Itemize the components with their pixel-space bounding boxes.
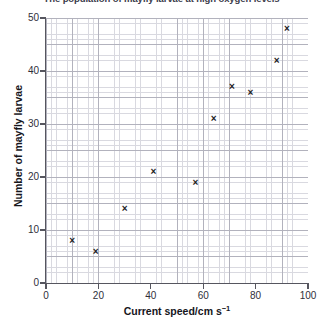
data-point: × <box>91 247 100 256</box>
x-axis-title-text: Current speed/cm s <box>124 305 222 317</box>
x-axis-tick <box>203 284 204 289</box>
y-axis-tick <box>40 176 45 177</box>
data-point: × <box>68 236 77 245</box>
x-axis-tick <box>255 284 256 289</box>
x-axis-tick-label: 80 <box>241 291 271 301</box>
x-axis-tick <box>45 284 46 289</box>
x-axis-title: Current speed/cm s−1 <box>46 305 308 317</box>
data-point: × <box>209 114 218 123</box>
data-point: × <box>149 167 158 176</box>
y-axis-tick <box>40 17 45 18</box>
x-axis-tick-label: 100 <box>293 291 323 301</box>
x-axis-tick <box>150 284 151 289</box>
data-point: × <box>272 56 281 65</box>
x-axis-line <box>45 283 309 284</box>
scatter-chart-figure: The population of mayfly larvae at high … <box>0 0 323 329</box>
data-point: × <box>191 178 200 187</box>
data-point: × <box>246 88 255 97</box>
y-axis-tick <box>40 282 45 283</box>
x-axis-tick <box>98 284 99 289</box>
y-axis-tick <box>40 123 45 124</box>
y-axis-tick-label: 0 <box>13 278 39 288</box>
x-axis-tick-label: 0 <box>31 291 61 301</box>
x-axis-tick-label: 20 <box>83 291 113 301</box>
plot-area: ×××××××××× <box>46 18 308 283</box>
data-point: × <box>283 24 292 33</box>
y-axis-title: Number of mayfly larvae <box>12 46 24 246</box>
x-axis-tick <box>307 284 308 289</box>
y-axis-line <box>45 17 46 284</box>
y-axis-tick-label: 50 <box>13 13 39 23</box>
x-axis-tick-label: 60 <box>188 291 218 301</box>
y-axis-tick <box>40 229 45 230</box>
data-point: × <box>228 82 237 91</box>
major-gridlines <box>46 18 308 283</box>
x-axis-title-exponent: −1 <box>222 304 231 313</box>
y-axis-tick <box>40 70 45 71</box>
x-axis-tick-label: 40 <box>136 291 166 301</box>
chart-title: The population of mayfly larvae at high … <box>0 0 323 4</box>
data-point: × <box>120 204 129 213</box>
